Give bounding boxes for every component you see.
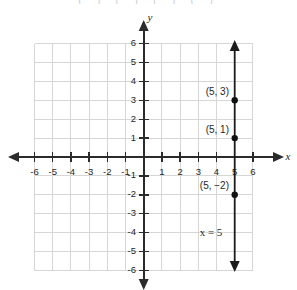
x-tick-label: 2 — [177, 166, 182, 177]
point-label: (5, 1) — [206, 124, 229, 135]
x-tick-label: -3 — [85, 166, 93, 177]
y-tick-label: 3 — [131, 94, 136, 105]
graph-canvas: -6 -5 -4 -3 -2 -1 1 2 3 4 5 6 6 5 4 3 2 … — [0, 0, 297, 290]
point-label: (5, −2) — [200, 180, 229, 191]
equation-label: x = 5 — [200, 226, 223, 238]
x-axis-arrow-right-icon — [273, 152, 284, 162]
x-axis-label: x — [285, 150, 291, 162]
point-dot — [232, 135, 238, 141]
y-tick-label: -4 — [128, 226, 136, 237]
x-tick-label: 3 — [196, 166, 201, 177]
y-tick-label: 4 — [131, 75, 136, 86]
y-tick-label: -2 — [128, 188, 136, 199]
y-tick-label: 5 — [131, 56, 136, 67]
axis-x — [8, 152, 284, 162]
y-tick-label: -3 — [128, 207, 136, 218]
x-tick-label: 1 — [159, 166, 164, 177]
line-arrow-up-icon — [230, 40, 240, 51]
y-tick-label: 6 — [131, 37, 136, 48]
y-axis-label: y — [147, 11, 153, 23]
point-dot — [232, 97, 238, 103]
x-tick-label: -6 — [30, 166, 38, 177]
y-axis-arrow-down-icon — [139, 279, 149, 290]
x-tick-label: -5 — [48, 166, 56, 177]
cropped-header-text: ( ) ( ) ( ) ( ) — [0, 0, 297, 4]
x-tick-label: -2 — [103, 166, 111, 177]
point-label: (5, 3) — [206, 86, 229, 97]
x-axis-arrow-left-icon — [8, 152, 19, 162]
y-tick-label: -6 — [128, 264, 136, 275]
coordinate-plane-figure: ( ) ( ) ( ) ( ) — [0, 0, 297, 290]
y-tick-label: -1 — [128, 169, 136, 180]
y-tick-label: -5 — [128, 245, 136, 256]
y-tick-label: 2 — [131, 113, 136, 124]
point-dot — [232, 192, 238, 198]
axis-y — [139, 20, 149, 290]
y-tick-label: 1 — [131, 132, 136, 143]
plotted-points: (5, 3) (5, 1) (5, −2) — [200, 86, 238, 198]
x-tick-label: -4 — [67, 166, 75, 177]
x-tick-label: 6 — [250, 166, 255, 177]
x-tick-label: 4 — [214, 166, 219, 177]
